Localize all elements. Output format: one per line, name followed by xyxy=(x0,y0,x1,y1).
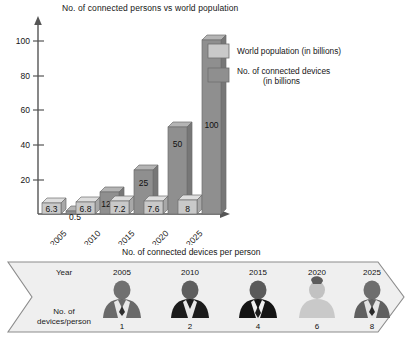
x-axis-ticks: 2005 2010 2015 2020 2025 xyxy=(48,228,205,245)
x-tick-2015: 2015 xyxy=(116,228,137,245)
y-tick-40: 40 xyxy=(21,140,31,150)
banner-year-2010: 2010 xyxy=(181,268,199,277)
bar-label-6-8: 6.8 xyxy=(80,204,92,214)
banner-devices-2025: 8 xyxy=(370,322,375,331)
y-tick-100: 100 xyxy=(16,36,30,46)
chart-plot-area: 100 80 60 40 20 xyxy=(0,0,412,245)
y-tick-60: 60 xyxy=(21,105,31,115)
banner-graphic: Year No. of devices/person 2005 1 xyxy=(0,258,412,339)
legend-label-connected-devices-line1: No. of connected devices xyxy=(237,66,330,76)
bar-label-7-6: 7.6 xyxy=(148,204,160,214)
devices-per-person-panel: No. of connected devices per person Year… xyxy=(0,245,412,339)
x-tick-2005: 2005 xyxy=(48,228,69,245)
chart-legend: World population (in billions) No. of co… xyxy=(208,44,341,86)
y-axis-ticks: 100 80 60 40 20 xyxy=(16,36,44,185)
banner-title: No. of connected devices per person xyxy=(122,247,260,257)
legend-label-world-population: World population (in billions) xyxy=(237,46,341,56)
banner-devices-2005: 1 xyxy=(120,322,125,331)
y-axis xyxy=(34,16,42,214)
infographic-root: No. of connected persons vs world popula… xyxy=(0,0,412,339)
bar-label-25: 25 xyxy=(139,178,149,188)
legend-swatch-world-population xyxy=(208,44,229,58)
banner-devices-2015: 4 xyxy=(256,322,261,331)
row-label-year: Year xyxy=(56,268,73,277)
banner-year-2025: 2025 xyxy=(363,268,381,277)
bar-label-100: 100 xyxy=(204,120,218,130)
banner-year-2005: 2005 xyxy=(113,268,131,277)
legend-label-connected-devices-line2: (in billions xyxy=(263,76,300,86)
row-label-devices-line2: devices/person xyxy=(37,317,91,326)
y-tick-20: 20 xyxy=(21,175,31,185)
legend-swatch-connected-devices xyxy=(208,68,229,82)
x-tick-2020: 2020 xyxy=(150,228,171,245)
banner-year-2020: 2020 xyxy=(308,268,326,277)
bar-label-50: 50 xyxy=(173,139,183,149)
y-tick-80: 80 xyxy=(21,71,31,81)
banner-devices-2020: 6 xyxy=(315,322,320,331)
bar-world-population-2025 xyxy=(178,195,202,214)
banner-year-2015: 2015 xyxy=(249,268,267,277)
bar-chart-panel: No. of connected persons vs world popula… xyxy=(0,0,412,245)
banner-devices-2010: 2 xyxy=(188,322,193,331)
bar-label-6-3: 6.3 xyxy=(46,204,58,214)
bar-label-7-2: 7.2 xyxy=(114,204,126,214)
x-tick-2010: 2010 xyxy=(82,228,103,245)
row-label-devices-line1: No. of xyxy=(53,307,75,316)
bar-label-8: 8 xyxy=(185,204,190,214)
x-tick-2025: 2025 xyxy=(184,228,205,245)
